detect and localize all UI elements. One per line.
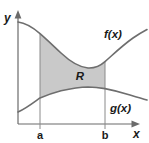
- figure-container: y x f(x) g(x) R a b: [0, 0, 149, 143]
- y-axis-arrowhead: [15, 10, 22, 19]
- y-axis-label: y: [3, 11, 12, 25]
- curve-fx-label: f(x): [104, 28, 122, 40]
- region-label: R: [76, 70, 85, 82]
- area-between-curves-diagram: y x f(x) g(x) R a b: [0, 0, 149, 143]
- x-axis-label: x: [132, 127, 141, 141]
- tick-label-a: a: [37, 129, 44, 141]
- curve-gx-label: g(x): [109, 102, 131, 114]
- curve-fx: [18, 22, 147, 68]
- tick-label-b: b: [102, 129, 109, 141]
